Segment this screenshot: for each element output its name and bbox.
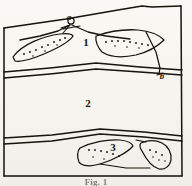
figure-drawing: 1 2 3 a b xyxy=(0,0,192,186)
frame-right-edge xyxy=(181,6,182,176)
bed-label-2: 2 xyxy=(85,97,91,109)
lens-upper-left xyxy=(13,34,73,62)
lens-lower-right-stipple xyxy=(149,149,166,162)
figure-caption: Fig. 1 xyxy=(0,177,192,186)
bedding-plane-2-upper xyxy=(4,129,182,138)
bed-label-3: 3 xyxy=(110,141,116,153)
ground-surface-line xyxy=(4,6,181,28)
lens-lower-right-lead xyxy=(136,140,146,142)
lens-lower-left xyxy=(78,140,133,166)
point-label-a: a xyxy=(67,12,72,22)
bed-label-1: 1 xyxy=(83,36,89,48)
figure-root: 1 2 3 a b Fig. 1 xyxy=(0,0,192,186)
point-label-b: b xyxy=(160,71,165,81)
ink-group xyxy=(4,6,182,176)
apex-right-limb xyxy=(72,25,130,39)
lens-lower-right xyxy=(140,141,171,169)
cross-section-svg: 1 2 3 a b xyxy=(0,0,192,186)
lens-lower-left-tail xyxy=(100,164,150,168)
bedding-plane-1-upper xyxy=(4,63,182,72)
lens-upper-right xyxy=(96,30,164,57)
lens-upper-right-stipple xyxy=(105,40,149,49)
